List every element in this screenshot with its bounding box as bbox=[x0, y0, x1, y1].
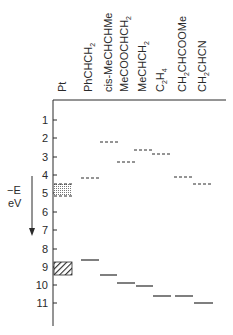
svg-text:−E: −E bbox=[7, 184, 21, 196]
svg-text:3: 3 bbox=[42, 151, 48, 163]
svg-text:11: 11 bbox=[37, 297, 48, 309]
svg-text:2: 2 bbox=[42, 132, 48, 144]
svg-text:1: 1 bbox=[42, 114, 48, 126]
label-mechch2: MeCHCH2 bbox=[136, 41, 150, 92]
energy-level-diagram: Pt PhCHCH2 cis-MeCHCHMe MeCOOCHCH2 MeCHC… bbox=[0, 0, 233, 335]
column-labels: Pt PhCHCH2 cis-MeCHCHMe MeCOOCHCH2 MeCHC… bbox=[56, 13, 210, 92]
svg-text:4: 4 bbox=[42, 169, 48, 181]
svg-text:9: 9 bbox=[42, 261, 48, 273]
label-ch2chcn: CH2CHCN bbox=[196, 40, 210, 92]
energy-axis-label: −E eV bbox=[7, 184, 22, 209]
pt-hatched-band bbox=[54, 262, 72, 275]
label-mecoochch2: MeCOOCHCH2 bbox=[118, 16, 132, 92]
label-c2h4: C2H4 bbox=[154, 68, 168, 92]
svg-text:5: 5 bbox=[42, 187, 48, 199]
svg-text:8: 8 bbox=[42, 243, 48, 255]
label-pt: Pt bbox=[56, 82, 68, 92]
svg-text:6: 6 bbox=[42, 206, 48, 218]
svg-text:eV: eV bbox=[8, 197, 22, 209]
pt-dotted-band bbox=[54, 184, 72, 196]
label-ch2chcoome: CH2CHCOOMe bbox=[176, 16, 190, 92]
down-arrow-icon bbox=[29, 176, 35, 236]
svg-text:10: 10 bbox=[36, 279, 48, 291]
label-cis-mechchme: cis-MeCHCHMe bbox=[102, 13, 114, 92]
y-ticks: 1 2 3 4 5 6 7 8 9 10 11 bbox=[36, 114, 57, 309]
dashed-levels bbox=[81, 142, 213, 184]
label-phchch2: PhCHCH2 bbox=[82, 43, 96, 92]
solid-levels bbox=[81, 260, 213, 303]
svg-text:7: 7 bbox=[42, 224, 48, 236]
